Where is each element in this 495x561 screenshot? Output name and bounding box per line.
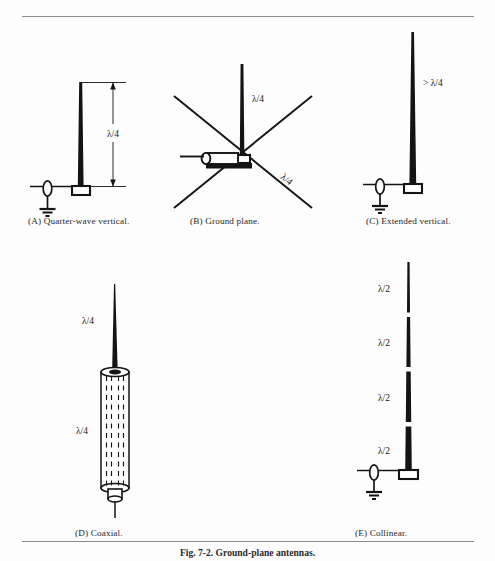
coaxial-sleeve [101,367,129,492]
diagram-collinear: λ/2 λ/2 λ/2 λ/2 [345,262,475,502]
ground-symbol [372,206,388,213]
panel-ground-plane: λ/4 λ/4 [160,60,320,210]
caption-panel-b: (B) Ground plane. [190,216,260,226]
collinear-segment-3 [406,372,411,423]
lower-label-d: λ/4 [76,426,88,436]
panel-collinear: λ/2 λ/2 λ/2 λ/2 [345,262,475,502]
panel-coaxial: λ/4 λ/4 [52,282,192,512]
caption-panel-c: (C) Extended vertical. [366,216,451,226]
ground-symbol [40,209,56,216]
figure-caption: Fig. 7-2. Ground-plane antennas. [0,547,495,558]
diagram-coaxial: λ/4 λ/4 [52,282,192,512]
base-insulator [399,470,418,479]
caption-panel-a: (A) Quarter-wave vertical. [28,216,129,226]
feed-insulator [370,465,379,480]
diagram-ground-plane: λ/4 λ/4 [160,60,320,210]
diagram-extended-vertical: > λ/4 [355,28,475,208]
dimension-label-a: λ/4 [107,129,119,139]
sleeve-top-cap [109,369,121,374]
upper-label-d: λ/4 [82,316,94,326]
collinear-segment-2 [406,317,410,367]
collinear-segment-1 [407,262,410,313]
panel-extended-vertical: > λ/4 [355,28,475,208]
segment-label-3: λ/2 [378,393,390,403]
diagram-quarter-wave-vertical: λ/4 [22,78,162,208]
radiator-element [78,82,84,186]
segment-label-4: λ/2 [378,446,390,456]
radial-label-b: λ/4 [279,172,295,187]
bottom-rule [22,541,474,542]
panel-quarter-wave-vertical: λ/4 [22,78,162,208]
feed-insulator [43,181,52,196]
segment-label-1: λ/2 [378,284,390,294]
collinear-segment-4 [405,427,412,471]
upper-radiator [112,284,117,368]
vertical-label-b: λ/4 [252,94,264,104]
radiator-element [240,64,245,158]
feed-insulator [376,179,385,194]
base-insulator [72,186,90,195]
caption-panel-d: (D) Coaxial. [75,528,123,538]
top-rule [22,16,474,17]
segment-label-2: λ/2 [378,338,390,348]
base-insulator [404,184,422,193]
caption-panel-e: (E) Collinear. [355,528,407,538]
coax-connector-end [202,153,211,164]
radiator-element [409,32,416,184]
figure-page: λ/4 (A) Quarter-wave vertical. λ/4 λ/4 (… [0,0,495,561]
dimension-label-c: > λ/4 [423,78,443,88]
coax-connector [108,489,122,502]
ground-symbol [366,492,382,499]
